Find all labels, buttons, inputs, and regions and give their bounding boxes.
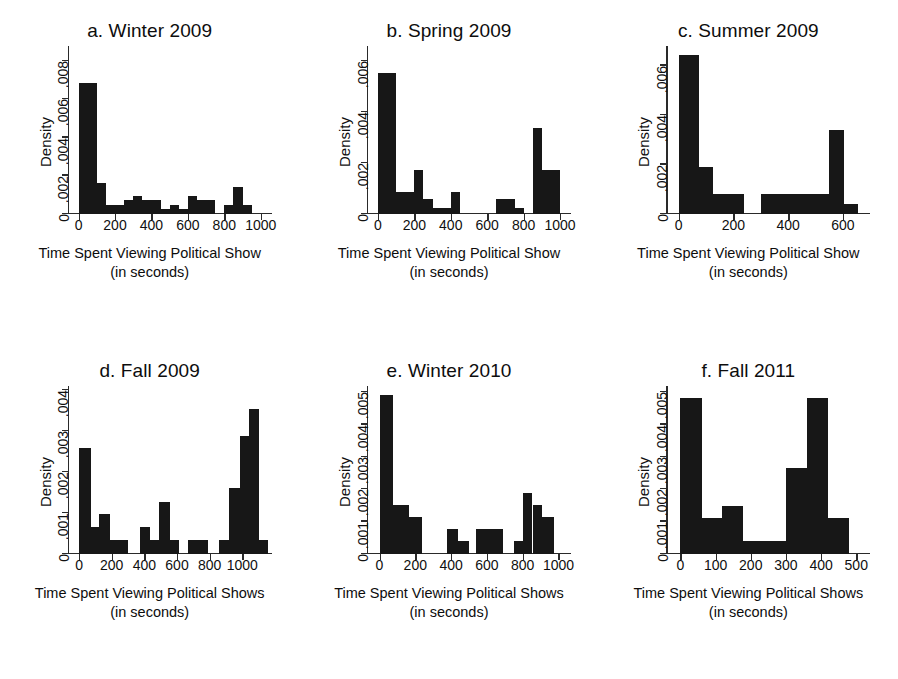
y-tick-label: .002 xyxy=(356,163,370,190)
histogram-bar xyxy=(249,409,259,554)
panel-f: f. Fall 2011Density0.001.002.003.004.005… xyxy=(599,340,898,679)
y-tick-label: .002 xyxy=(57,472,71,499)
y-tick-label: .002 xyxy=(655,489,669,516)
histogram-bar xyxy=(713,194,744,214)
x-tick-label: 1000 xyxy=(227,556,258,574)
y-tick-label: .008 xyxy=(57,61,71,88)
x-axis-label-b: Time Spent Viewing Political Show xyxy=(338,245,560,261)
histogram-bar xyxy=(786,468,807,554)
histogram-bar xyxy=(514,541,523,554)
x-tick-label: 800 xyxy=(213,216,236,234)
x-tick-label: 1000 xyxy=(544,216,575,234)
x-axis-caption-b: Time Spent Viewing Political Show(in sec… xyxy=(299,244,598,282)
x-axis-label-a: Time Spent Viewing Political Show xyxy=(38,245,260,261)
x-tick-labels-e: 02004006008001000 xyxy=(323,556,575,574)
x-tick-label: 200 xyxy=(103,216,126,234)
histogram-bar xyxy=(188,540,208,554)
x-tick-labels-f: 0100200300400500 xyxy=(622,556,874,574)
histogram-bar xyxy=(451,192,460,214)
axes-f xyxy=(666,386,870,554)
histogram-bar xyxy=(447,529,459,554)
histogram-bar xyxy=(409,517,422,554)
y-tick-label: .006 xyxy=(655,66,669,93)
x-axis-caption-e: Time Spent Viewing Political Shows(in se… xyxy=(299,584,598,622)
axes-c xyxy=(666,46,870,214)
panel-title-c: c. Summer 2009 xyxy=(599,0,898,44)
x-tick-label: 100 xyxy=(704,556,727,574)
bars-group-a xyxy=(68,46,272,214)
y-tick-label: .004 xyxy=(57,138,71,165)
y-tick-label: .003 xyxy=(356,457,370,484)
histogram-bar xyxy=(97,183,106,215)
x-tick-label: 600 xyxy=(176,216,199,234)
panel-e: e. Winter 2010Density0.001.002.003.004.0… xyxy=(299,340,598,679)
histogram-bar xyxy=(124,200,133,214)
histogram-bar xyxy=(702,518,722,555)
y-tick-label: .001 xyxy=(57,513,71,540)
y-tick-label: .002 xyxy=(655,165,669,192)
x-tick-label: 600 xyxy=(475,556,498,574)
x-axis-units-d: (in seconds) xyxy=(0,603,299,622)
x-tick-label: 1000 xyxy=(245,216,276,234)
y-tick-label: .004 xyxy=(57,390,71,417)
plot-area-a: Density0.002.004.006.0080200400600800100… xyxy=(24,44,276,240)
y-tick-label: .003 xyxy=(57,431,71,458)
histogram-bar xyxy=(761,194,829,214)
axes-b xyxy=(367,46,571,214)
x-tick-label: 1000 xyxy=(543,556,574,574)
histogram-bar xyxy=(829,130,844,214)
x-tick-label: 500 xyxy=(845,556,868,574)
histogram-bar xyxy=(79,448,91,554)
histogram-bar xyxy=(433,208,451,214)
histogram-bar xyxy=(844,204,858,214)
bars-group-f xyxy=(666,386,870,554)
y-tick-labels-c: 0.002.004.006 xyxy=(636,44,662,240)
x-tick-label: 300 xyxy=(774,556,797,574)
x-tick-label: 600 xyxy=(165,556,188,574)
bars-group-e xyxy=(367,386,571,554)
plot-area-e: Density0.001.002.003.004.005020040060080… xyxy=(323,384,575,580)
histogram-bar xyxy=(423,199,432,214)
histogram-bar xyxy=(679,55,700,214)
y-tick-label: .005 xyxy=(356,392,370,419)
x-axis-label-c: Time Spent Viewing Political Show xyxy=(637,245,859,261)
histogram-bar xyxy=(110,540,128,554)
panel-title-a: a. Winter 2009 xyxy=(0,0,299,44)
histogram-bar xyxy=(179,209,188,214)
y-tick-label: .006 xyxy=(356,61,370,88)
y-tick-label: .003 xyxy=(655,457,669,484)
y-tick-label: .004 xyxy=(356,112,370,139)
histogram-bar xyxy=(828,518,848,555)
histogram-bar xyxy=(515,208,524,214)
histogram-bar xyxy=(150,540,159,554)
x-axis-units-a: (in seconds) xyxy=(0,263,299,282)
histogram-figure-grid: a. Winter 2009Density0.002.004.006.00802… xyxy=(0,0,898,679)
histogram-bar xyxy=(680,398,702,554)
x-tick-label: 400 xyxy=(140,216,163,234)
x-tick-label: 400 xyxy=(133,556,156,574)
histogram-bar xyxy=(140,527,150,554)
histogram-bar xyxy=(99,514,110,554)
histogram-bar xyxy=(807,398,828,554)
histogram-bar xyxy=(219,540,230,554)
axes-d xyxy=(68,386,272,554)
x-tick-labels-c: 0200400600 xyxy=(622,216,874,234)
histogram-bar xyxy=(133,196,142,214)
y-tick-labels-d: 0.001.002.003.004 xyxy=(38,384,64,580)
histogram-bar xyxy=(699,167,713,214)
x-tick-label: 400 xyxy=(776,216,799,234)
histogram-bar xyxy=(743,541,786,554)
histogram-bar xyxy=(396,192,414,214)
histogram-bar xyxy=(533,505,543,554)
histogram-bar xyxy=(233,187,242,214)
y-tick-labels-f: 0.001.002.003.004.005 xyxy=(636,384,662,580)
plot-area-d: Density0.001.002.003.0040200400600800100… xyxy=(24,384,276,580)
axes-e xyxy=(367,386,571,554)
plot-area-b: Density0.002.004.00602004006008001000 xyxy=(323,44,575,240)
bars-group-c xyxy=(666,46,870,214)
x-tick-labels-a: 02004006008001000 xyxy=(24,216,276,234)
y-tick-label: .002 xyxy=(57,176,71,203)
x-axis-units-f: (in seconds) xyxy=(599,603,898,622)
histogram-bar xyxy=(542,170,560,214)
x-axis-units-c: (in seconds) xyxy=(599,263,898,282)
